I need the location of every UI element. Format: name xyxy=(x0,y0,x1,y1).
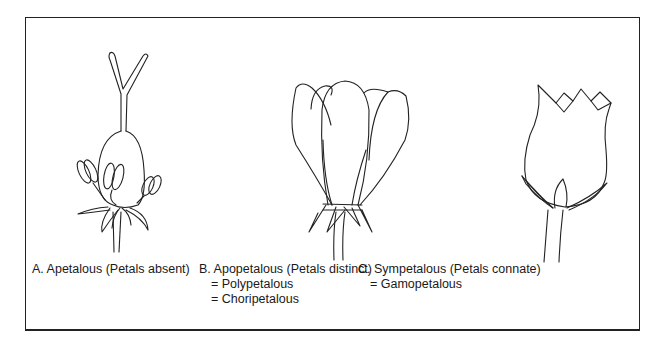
panel-b-synonym-1: = Polypetalous xyxy=(199,277,372,292)
panel-c-title: C. Sympetalous (Petals connate) xyxy=(358,262,541,276)
panel-b-title: B. Apopetalous (Petals distinct) xyxy=(199,262,372,276)
panel-c-caption: C. Sympetalous (Petals connate) = Gamope… xyxy=(358,262,541,292)
apopetalous-flower-drawing xyxy=(292,81,409,260)
panel-c-synonym-1: = Gamopetalous xyxy=(358,277,541,292)
panel-a-title: A. Apetalous (Petals absent) xyxy=(32,262,190,276)
panel-a-caption: A. Apetalous (Petals absent) xyxy=(32,262,190,277)
panel-b-synonym-2: = Choripetalous xyxy=(199,292,372,307)
apetalous-flower-drawing xyxy=(74,52,163,252)
sympetalous-flower-drawing xyxy=(522,85,611,262)
panel-b-caption: B. Apopetalous (Petals distinct) = Polyp… xyxy=(199,262,372,307)
